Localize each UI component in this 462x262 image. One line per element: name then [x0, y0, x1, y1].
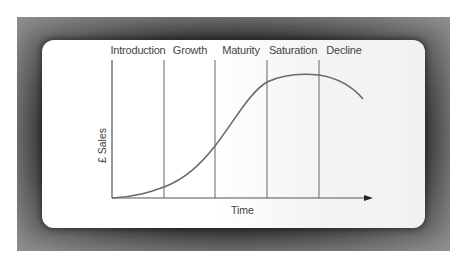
stage-label-saturation: Saturation [269, 44, 317, 56]
stage-label-introduction: Introduction [110, 44, 165, 56]
stage-label-decline: Decline [326, 44, 361, 56]
sales-curve [112, 74, 363, 198]
stage-label-maturity: Maturity [222, 44, 260, 56]
y-axis-label: £ Sales [96, 128, 108, 163]
x-axis-label: Time [231, 204, 254, 216]
x-axis-arrow-icon [364, 195, 373, 201]
life-cycle-chart [0, 0, 462, 262]
stage-label-growth: Growth [173, 44, 207, 56]
